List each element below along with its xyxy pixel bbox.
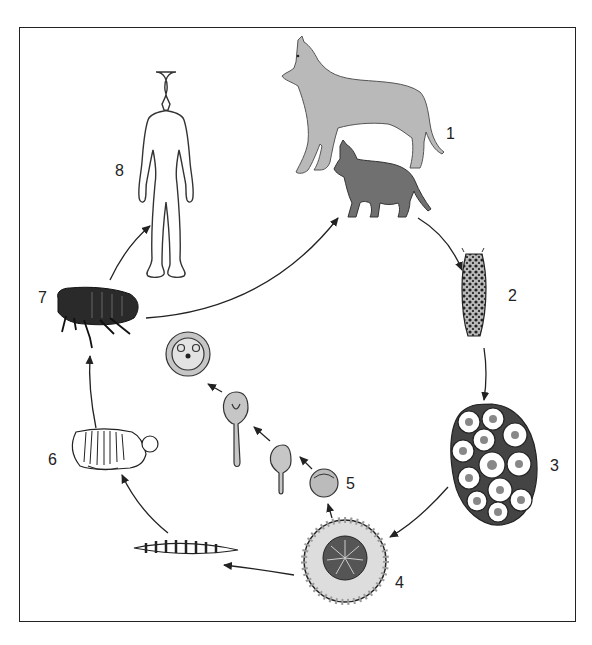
stage-label-1: 1 <box>446 126 455 142</box>
stage-label-2: 2 <box>508 288 517 304</box>
dog-figure <box>282 36 444 173</box>
arrow-hosts-to-proglottid <box>418 218 462 270</box>
stage-label-5: 5 <box>346 476 355 492</box>
arrow-larva-to-pupa <box>122 475 168 533</box>
adult-flea <box>58 287 138 348</box>
flea-pupa <box>73 429 158 470</box>
stage-label-6: 6 <box>48 452 57 468</box>
stage-label-7: 7 <box>38 290 47 306</box>
stage-label-8: 8 <box>115 163 124 179</box>
arrow-eggpacket-to-egg <box>390 487 448 537</box>
cysticercoid-sequence <box>166 332 291 494</box>
egg-packet <box>451 404 537 525</box>
arrow-proglottid-to-eggpacket <box>484 348 486 400</box>
stage-label-4: 4 <box>395 575 404 591</box>
life-cycle-artwork <box>0 0 592 645</box>
flea-larva <box>134 540 238 554</box>
arrow-egg-to-stage5 <box>328 504 332 518</box>
proglottid <box>462 248 486 336</box>
arrow-pupa-to-flea <box>90 356 96 428</box>
cysticercoid-early <box>310 469 338 497</box>
arrow-egg-to-larva <box>224 565 294 575</box>
human-figure <box>139 72 193 277</box>
arrow-seq1-to-seq2 <box>254 427 270 441</box>
egg-oncosphere <box>304 520 386 602</box>
arrow-flea-to-human <box>110 226 150 280</box>
stage-label-3: 3 <box>550 458 559 474</box>
arrow-stage5-to-seq1 <box>300 457 312 469</box>
arrow-seq2-to-seq3 <box>208 384 222 392</box>
